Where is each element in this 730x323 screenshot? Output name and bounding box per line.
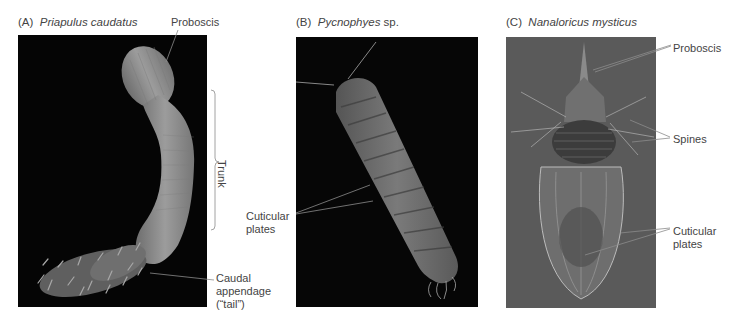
panel-a-micrograph <box>18 35 207 307</box>
priapulid-worm-illustration <box>18 35 207 307</box>
panel-a-species: Priapulus caudatus <box>40 16 138 28</box>
panel-c-species: Nanaloricus mysticus <box>528 16 637 28</box>
label-proboscis-a: Proboscis <box>171 16 219 29</box>
panel-b-micrograph <box>296 37 478 307</box>
panel-a-title: (A) Priapulus caudatus <box>18 16 138 28</box>
label-proboscis-c: Proboscis <box>673 42 721 55</box>
loriciferan-illustration <box>506 37 656 308</box>
panel-a-letter: (A) <box>18 16 33 28</box>
panel-c-letter: (C) <box>506 16 522 28</box>
label-cuticular-plates-c: Cuticular plates <box>673 225 716 251</box>
label-trunk: Trunk <box>216 160 228 188</box>
panel-c-micrograph <box>506 37 656 308</box>
label-caudal-appendage: Caudal appendage (“tail”) <box>216 272 271 311</box>
panel-b-letter: (B) <box>296 16 311 28</box>
label-spines: Spines <box>673 133 707 146</box>
label-cuticular-plates-b: Cuticular plates <box>246 210 289 236</box>
panel-c-title: (C) Nanaloricus mysticus <box>506 16 637 28</box>
panel-b-title: (B) Pycnophyes sp. <box>296 16 399 28</box>
panel-b-species: Pycnophyes <box>318 16 381 28</box>
kinorhynch-illustration <box>296 37 478 307</box>
